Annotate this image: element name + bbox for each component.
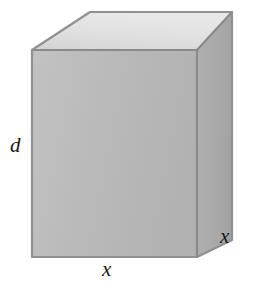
box-illustration (0, 0, 254, 293)
dimension-label-depth: d (10, 135, 21, 156)
dimension-label-width-right: x (220, 226, 229, 247)
figure-root: d x x (0, 0, 254, 293)
box-right-face (197, 12, 232, 257)
box-front-face (32, 50, 197, 257)
dimension-label-width-bottom: x (102, 259, 111, 280)
